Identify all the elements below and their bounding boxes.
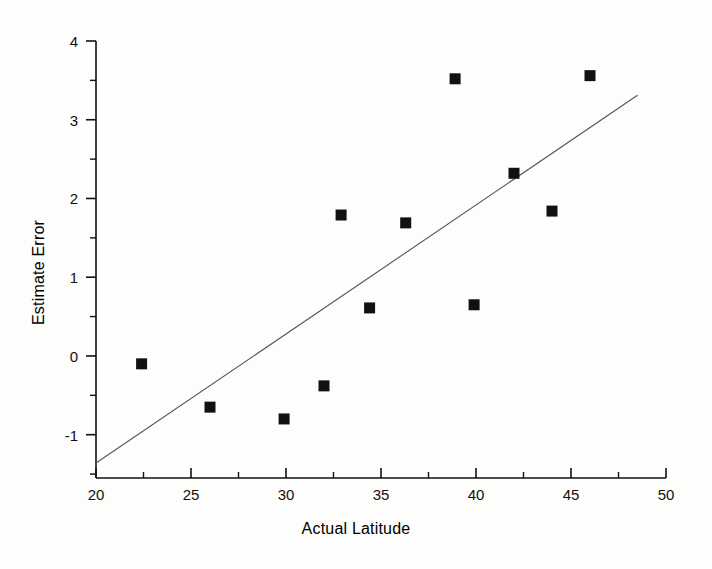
data-point [205, 402, 216, 413]
y-axis-label: Estimate Error [30, 220, 48, 325]
data-point [136, 358, 147, 369]
x-tick-label: 30 [278, 486, 295, 503]
x-tick-label: 20 [88, 486, 105, 503]
data-point [279, 413, 290, 424]
x-tick-label: 25 [183, 486, 200, 503]
data-point [547, 206, 558, 217]
x-axis-ticks [96, 468, 666, 478]
y-tick-label: 3 [52, 111, 78, 128]
data-point-markers [136, 70, 595, 424]
data-point [319, 380, 330, 391]
x-tick-label: 35 [373, 486, 390, 503]
regression-trendline [96, 95, 638, 463]
scatter-plot-figure: 20253035404550 43210-1 Actual Latitude E… [0, 0, 712, 569]
y-tick-label: 2 [52, 190, 78, 207]
data-point [400, 217, 411, 228]
data-point [585, 70, 596, 81]
data-point [336, 210, 347, 221]
plot-canvas [0, 0, 712, 569]
x-axis-label: Actual Latitude [0, 520, 712, 538]
y-tick-label: 0 [52, 347, 78, 364]
y-tick-label: -1 [52, 426, 78, 443]
data-point [364, 302, 375, 313]
y-tick-label: 1 [52, 269, 78, 286]
data-point [469, 299, 480, 310]
y-axis-ticks [86, 41, 96, 474]
x-tick-label: 45 [563, 486, 580, 503]
data-point [450, 73, 461, 84]
y-tick-label: 4 [52, 33, 78, 50]
x-tick-label: 40 [468, 486, 485, 503]
data-point [509, 168, 520, 179]
x-tick-label: 50 [658, 486, 675, 503]
